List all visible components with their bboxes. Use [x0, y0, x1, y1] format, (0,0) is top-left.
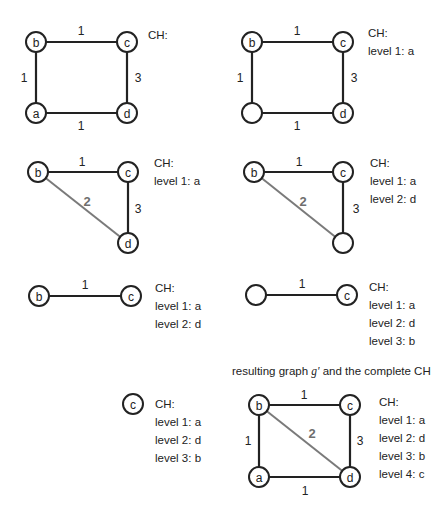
node-label: b — [35, 166, 42, 180]
edge-weight-label: 2 — [308, 426, 315, 441]
ch-level-entry: level 1: a — [154, 172, 200, 190]
ch-level-entry: level 2: d — [155, 315, 201, 333]
ch-level-list: CH:level 1: alevel 2: d — [155, 279, 201, 333]
caption-prefix: resulting graph — [232, 365, 311, 377]
ch-level-entry: level 2: d — [370, 190, 416, 208]
node-label: d — [347, 471, 354, 485]
node-b: b — [29, 286, 49, 306]
ch-level-entry: level 1: a — [369, 296, 415, 314]
ch-level-list: CH:level 1: alevel 2: dlevel 3: b — [155, 395, 201, 467]
ch-header: CH: — [369, 278, 415, 296]
node-b-contracted — [246, 285, 266, 305]
ch-level-entry: level 3: b — [369, 332, 415, 350]
ch-level-list: CH:level 1: a — [154, 154, 200, 190]
edge-weight-label: 2 — [299, 194, 306, 209]
edge-weight-label: 1 — [294, 24, 301, 38]
panel-step2: 132bcd — [28, 155, 142, 253]
ch-level-entry: level 1: a — [368, 42, 414, 60]
node-label: b — [251, 166, 258, 180]
panel-step3: 132bc — [244, 155, 360, 253]
node-c: c — [340, 395, 360, 415]
ch-level-entry: level 3: b — [155, 449, 201, 467]
edge-weight-label: 1 — [299, 277, 306, 291]
node-label: d — [125, 237, 132, 251]
ch-header: CH: — [148, 26, 168, 44]
result-caption: resulting graph g' and the complete CH — [232, 365, 431, 377]
ch-level-entry: level 1: a — [155, 297, 201, 315]
ch-level-list: CH:level 1: a — [368, 24, 414, 60]
ch-level-list: CH:level 1: alevel 2: d — [370, 154, 416, 208]
ch-level-entry: level 2: d — [379, 429, 425, 447]
ch-level-entry: level 1: a — [370, 172, 416, 190]
node-label: c — [340, 36, 346, 50]
edge-weight-label: 1 — [296, 155, 303, 169]
node-label: c — [344, 289, 350, 303]
ch-level-entry: level 1: a — [155, 413, 201, 431]
node-label: c — [124, 36, 130, 50]
edge-weight-label: 3 — [135, 202, 142, 216]
edge-weight-label: 1 — [302, 484, 309, 498]
ch-level-entry: level 4: c — [379, 465, 425, 483]
node-label: b — [33, 36, 40, 50]
node-b: b — [242, 32, 262, 52]
ch-header: CH: — [368, 24, 414, 42]
caption-suffix: and the complete CH — [320, 365, 431, 377]
edge-weight-label: 1 — [82, 278, 89, 292]
panel-result: 11312bcad — [245, 388, 364, 498]
node-label: a — [256, 471, 263, 485]
node-label: a — [33, 107, 40, 121]
ch-header: CH: — [155, 395, 201, 413]
ch-level-list: CH: — [148, 26, 168, 44]
node-c: c — [121, 286, 141, 306]
edge-weight-label: 2 — [83, 194, 90, 209]
ch-header: CH: — [154, 154, 200, 172]
edge-weight-label: 1 — [79, 155, 86, 169]
caption-graph-name: g' — [311, 365, 319, 377]
node-c: c — [333, 162, 353, 182]
edge-weight-label: 1 — [294, 119, 301, 133]
node-label: d — [124, 107, 131, 121]
node-c: c — [123, 394, 143, 414]
node-d: d — [118, 233, 138, 253]
edge-weight-label: 1 — [21, 71, 28, 85]
node-label: c — [130, 398, 136, 412]
ch-header: CH: — [379, 393, 425, 411]
node-d: d — [333, 103, 353, 123]
ch-level-entry: level 3: b — [379, 447, 425, 465]
node-a: a — [26, 103, 46, 123]
edge-weight-label: 1 — [78, 24, 85, 38]
node-d-contracted — [333, 233, 353, 253]
node-d: d — [340, 467, 360, 487]
edge-weight-label: 3 — [353, 202, 360, 216]
edge-weight-label: 3 — [135, 71, 142, 85]
ch-header: CH: — [370, 154, 416, 172]
node-c: c — [333, 32, 353, 52]
node-label: d — [340, 107, 347, 121]
edge-weight-label: 1 — [301, 388, 308, 402]
ch-level-entry: level 1: a — [379, 411, 425, 429]
edge-weight-label: 3 — [357, 434, 364, 448]
panel-step1: 1131bcd — [237, 24, 358, 133]
ch-level-list: CH:level 1: alevel 2: dlevel 3: blevel 4… — [379, 393, 425, 483]
ch-header: CH: — [155, 279, 201, 297]
node-label: c — [128, 290, 134, 304]
node-label: c — [340, 166, 346, 180]
panel-step4: 1bc — [29, 278, 141, 306]
node-label: b — [249, 36, 256, 50]
panel-step6: c — [123, 394, 143, 414]
node-b: b — [26, 32, 46, 52]
node-a: a — [249, 467, 269, 487]
node-circle — [246, 285, 266, 305]
ch-level-entry: level 2: d — [155, 431, 201, 449]
node-c: c — [117, 32, 137, 52]
node-label: b — [256, 399, 263, 413]
node-label: c — [347, 399, 353, 413]
panel-step5: 1c — [246, 277, 357, 305]
ch-level-list: CH:level 1: alevel 2: dlevel 3: b — [369, 278, 415, 350]
node-b: b — [244, 162, 264, 182]
node-a-contracted — [242, 103, 262, 123]
edge-weight-label: 1 — [237, 71, 244, 85]
edge-weight-label: 1 — [245, 434, 252, 448]
edge-weight-label: 1 — [78, 119, 85, 133]
node-c: c — [118, 162, 138, 182]
